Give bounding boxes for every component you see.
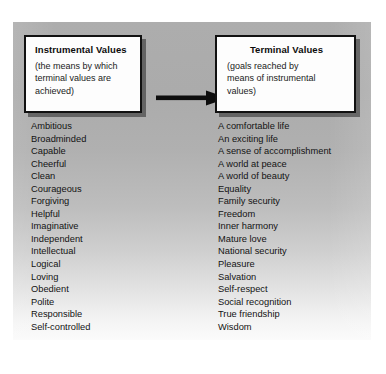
terminal-value-item: A comfortable life [218,120,331,133]
instrumental-values-title: Instrumental Values [35,44,132,55]
instrumental-value-item: Polite [31,296,90,309]
terminal-subtitle-line: values) [227,85,346,97]
terminal-values-box: Terminal Values (goals reached by means … [215,35,356,113]
terminal-values-list: A comfortable lifeAn exciting lifeA sens… [218,120,331,333]
terminal-value-item: A sense of accomplishment [218,145,331,158]
terminal-value-item: Self-respect [218,283,331,296]
terminal-value-item: Salvation [218,271,331,284]
instrumental-value-item: Independent [31,233,90,246]
terminal-value-item: Pleasure [218,258,331,271]
instrumental-value-item: Intellectual [31,245,90,258]
terminal-value-item: An exciting life [218,133,331,146]
instrumental-value-item: Capable [31,145,90,158]
instrumental-value-item: Cheerful [31,158,90,171]
instrumental-value-item: Imaginative [31,220,90,233]
instrumental-value-item: Forgiving [31,195,90,208]
instrumental-value-item: Ambitious [31,120,90,133]
terminal-value-item: A world at peace [218,158,331,171]
instrumental-value-item: Broadminded [31,133,90,146]
instrumental-subtitle-line: (the means by which [35,60,132,72]
instrumental-value-item: Helpful [31,208,90,221]
terminal-value-item: National security [218,245,331,258]
instrumental-value-item: Clean [31,170,90,183]
instrumental-subtitle-line: terminal values are [35,72,132,84]
instrumental-value-item: Obedient [31,283,90,296]
terminal-value-item: Wisdom [218,321,331,334]
terminal-value-item: Equality [218,183,331,196]
instrumental-values-list: AmbitiousBroadmindedCapableCheerfulClean… [31,120,90,333]
instrumental-value-item: Self-controlled [31,321,90,334]
instrumental-value-item: Logical [31,258,90,271]
instrumental-values-box: Instrumental Values (the means by which … [24,35,142,113]
terminal-values-subtitle: (goals reached by means of instrumental … [227,60,346,97]
terminal-value-item: A world of beauty [218,170,331,183]
terminal-subtitle-line: means of instrumental [227,72,346,84]
terminal-subtitle-line: (goals reached by [227,60,346,72]
terminal-value-item: Social recognition [218,296,331,309]
instrumental-values-subtitle: (the means by which terminal values are … [35,60,132,97]
instrumental-value-item: Responsible [31,308,90,321]
terminal-value-item: Mature love [218,233,331,246]
terminal-values-title: Terminal Values [227,44,346,55]
terminal-value-item: Family security [218,195,331,208]
terminal-value-item: Inner harmony [218,220,331,233]
terminal-value-item: Freedom [218,208,331,221]
terminal-value-item: True friendship [218,308,331,321]
instrumental-subtitle-line: achieved) [35,85,132,97]
instrumental-value-item: Loving [31,271,90,284]
instrumental-value-item: Courageous [31,183,90,196]
